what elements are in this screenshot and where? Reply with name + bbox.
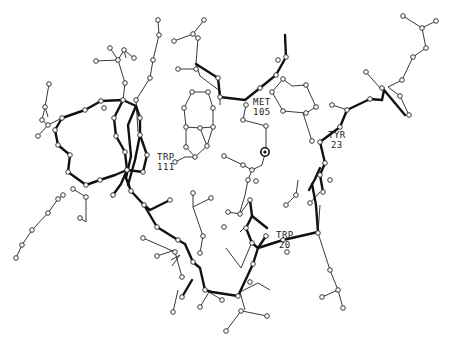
residue-number: 20 — [276, 240, 294, 250]
residue-name: TYR — [328, 130, 346, 140]
residue-number: 105 — [253, 107, 271, 117]
residue-name: MET — [253, 97, 271, 107]
residue-name: TRP — [157, 152, 175, 162]
residue-label-met105: MET 105 — [253, 97, 271, 117]
structure-drawing — [0, 0, 450, 344]
residue-name: TRP — [276, 230, 294, 240]
residue-number: 23 — [328, 140, 346, 150]
molecular-structure-figure: TRP 111 MET 105 TYR 23 TRP 20 — [0, 0, 450, 344]
atoms — [14, 14, 439, 334]
side-chain-bonds — [16, 16, 436, 331]
residue-label-tyr23: TYR 23 — [328, 130, 346, 150]
residue-label-trp20: TRP 20 — [276, 230, 294, 250]
metal-center — [261, 148, 269, 156]
residue-number: 111 — [157, 162, 175, 172]
backbone-bonds — [55, 35, 405, 297]
residue-label-trp111: TRP 111 — [157, 152, 175, 172]
